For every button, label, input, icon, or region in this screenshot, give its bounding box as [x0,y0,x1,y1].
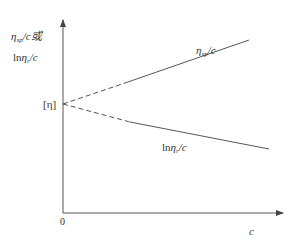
y-axis-label-line1: ηsp/c或 [11,30,42,46]
intercept-label: [η] [43,98,56,110]
inherent-viscosity-extrapolation [63,104,130,122]
label-rest: /c [208,44,216,56]
viscosity-extrapolation-diagram: ηsp/c或 lnηr/c [η] ηsp/c lnηr/c 0 c [0,0,301,249]
reduced-viscosity-extrapolation [63,83,125,104]
ln-text: ln [162,141,171,153]
y-axis-label-line2: lnηr/c [13,51,38,67]
inherent-viscosity-line [130,122,269,149]
reduced-viscosity-label: ηsp/c [196,44,216,60]
plot-canvas [0,0,301,249]
label-rest: /c或 [23,30,42,42]
inherent-viscosity-label: lnηr/c [162,141,187,157]
reduced-viscosity-line [125,40,249,83]
origin-label: 0 [60,216,65,228]
x-axis-label: c [249,225,254,237]
ln-text: ln [13,51,22,63]
label-rest: /c [30,51,38,63]
label-rest: /c [179,141,187,153]
